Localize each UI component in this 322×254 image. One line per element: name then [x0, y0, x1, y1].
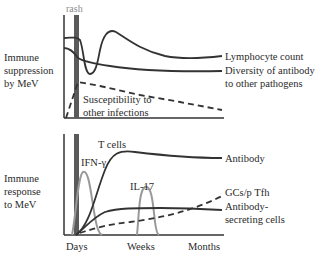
- top-ylabel-line3: by MeV: [4, 78, 39, 89]
- bottom-panel: Immune response to MeV T cells IFN-γ IL-…: [4, 134, 285, 252]
- diagram: Immune suppression by MeV rash Lymphocyt…: [0, 0, 322, 254]
- bottom-ylabel-line1: Immune: [4, 173, 39, 184]
- lymphocyte-count-label: Lymphocyte count: [225, 51, 304, 62]
- rash-bar: [74, 15, 79, 118]
- t-cells-label: T cells: [98, 139, 126, 150]
- antibody-diversity-label-2: to other pathogens: [225, 78, 303, 89]
- lymphocyte-count-curve: [64, 31, 222, 74]
- susceptibility-label-1: Susceptibility to: [83, 94, 152, 105]
- asc-label-1: Antibody-: [225, 201, 269, 212]
- top-ylabel-line1: Immune: [4, 52, 39, 63]
- bottom-ylabel-line2: response: [4, 186, 41, 197]
- x-tick-weeks: Weeks: [127, 241, 155, 252]
- bottom-ylabel-line3: to MeV: [4, 199, 37, 210]
- x-tick-months: Months: [188, 241, 220, 252]
- antibody-diversity-curve: [64, 48, 222, 71]
- ifn-gamma-label: IFN-γ: [81, 157, 106, 168]
- il17-curve: [137, 187, 159, 235]
- asc-label-2: secreting cells: [225, 214, 285, 225]
- x-tick-days: Days: [66, 241, 88, 252]
- antibody-diversity-label-1: Diversity of antibody: [225, 65, 316, 76]
- top-ylabel-line2: suppression: [4, 65, 54, 76]
- antibody-label: Antibody: [225, 153, 265, 164]
- il17-label: IL-17: [130, 181, 154, 192]
- top-panel: Immune suppression by MeV rash Lymphocyt…: [4, 3, 316, 118]
- susceptibility-label-2: other infections: [83, 107, 149, 118]
- gcs-tfh-label: GCs/p Tfh: [225, 187, 270, 198]
- rash-label: rash: [66, 3, 83, 14]
